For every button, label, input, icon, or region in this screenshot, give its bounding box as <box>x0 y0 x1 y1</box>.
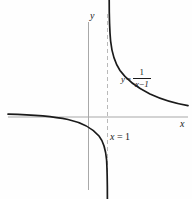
y-axis-label: y <box>90 10 94 21</box>
asymptote-label-variable: x <box>110 131 114 142</box>
plot-canvas <box>0 0 192 199</box>
x-axis-label: x <box>180 118 184 129</box>
asymptote-label: x = 1 <box>110 131 130 142</box>
equation-equals-sign: = <box>126 74 131 84</box>
asymptote-label-value: 1 <box>125 131 130 142</box>
equation-annotation: y = 1 x−1 <box>121 68 151 90</box>
curve-left-branch <box>8 114 107 199</box>
function-graph-figure: y x x = 1 y = 1 x−1 <box>0 0 192 199</box>
denominator-constant: 1 <box>144 79 149 89</box>
fraction-denominator: x−1 <box>133 80 151 89</box>
equation-lhs: y <box>121 74 125 84</box>
asymptote-label-equals: = <box>117 131 123 142</box>
equation-fraction: 1 x−1 <box>133 68 151 90</box>
fraction-numerator: 1 <box>138 68 147 77</box>
